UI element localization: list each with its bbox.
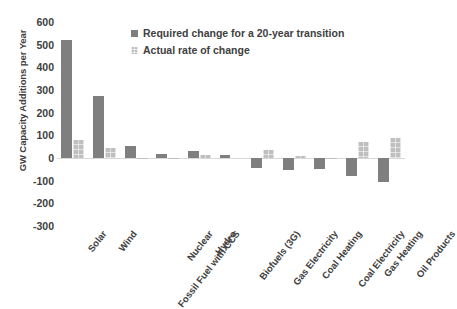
bar-group [57,22,89,226]
bar-group [89,22,121,226]
y-axis-tick-500: 500 [36,39,54,50]
bar [200,155,211,158]
bar [220,155,231,158]
bar [283,158,294,170]
chart-legend: Required change for a 20-year transition… [131,26,344,60]
bar [188,151,199,158]
y-axis-tick-0: 0 [48,153,54,164]
bar [93,96,104,158]
y-axis-tick-300: 300 [36,85,54,96]
y-axis-tick-neg300: -300 [33,221,54,232]
x-axis-tick-labels: SolarWindFossil Fuel with CCSNuclearHydr… [57,226,405,283]
bar [346,158,357,176]
legend-swatch-icon [131,30,138,37]
legend-label: Required change for a 20-year transition [143,28,344,39]
y-axis-tick-neg200: -200 [33,198,54,209]
bar [390,138,401,158]
y-axis-tick-100: 100 [36,130,54,141]
bar [156,154,167,158]
bar-group [342,22,374,226]
y-axis-tick-labels: 6005004003002001000-100-200-300 [20,0,54,283]
legend-item: Actual rate of change [131,43,344,57]
x-axis-label: Wind [117,229,139,253]
legend-label: Actual rate of change [143,45,250,56]
bar [73,140,84,158]
bar [295,156,306,158]
y-axis-tick-600: 600 [36,17,54,28]
bar [378,158,389,182]
bar [263,150,274,158]
bar [358,142,369,158]
bar [251,158,262,168]
bar [125,146,136,158]
legend-swatch-icon [131,47,138,54]
legend-item: Required change for a 20-year transition [131,26,344,40]
bar [105,148,116,158]
x-axis-label: Solar [86,229,108,254]
y-axis-tick-400: 400 [36,62,54,73]
y-axis-tick-200: 200 [36,107,54,118]
bar-group [373,22,405,226]
bar [314,158,325,169]
y-axis-tick-neg100: -100 [33,175,54,186]
bar [61,40,72,158]
